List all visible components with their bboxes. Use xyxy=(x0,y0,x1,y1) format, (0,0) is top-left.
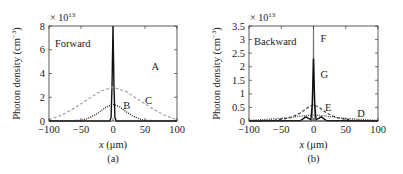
y-tick-label: 6 xyxy=(40,44,45,55)
y-tick-label: 0 xyxy=(40,116,45,127)
panel-title: Forward xyxy=(55,38,91,49)
series-label-g: G xyxy=(321,69,329,80)
y-tick-label: 2 xyxy=(240,61,245,72)
series-label-c: C xyxy=(145,95,152,106)
x-tick-label: 100 xyxy=(169,124,185,135)
panel-caption: (b) xyxy=(307,153,320,165)
series-c-line xyxy=(49,87,177,120)
y-tick-label: 3 xyxy=(240,34,245,45)
series-label-d: D xyxy=(357,108,365,119)
y-multiplier-label: × 1013 xyxy=(250,11,276,23)
series-label-b: B xyxy=(123,100,130,111)
y-tick-label: 1.5 xyxy=(232,75,245,86)
x-tick-label: 50 xyxy=(140,124,151,135)
x-tick-label: 0 xyxy=(110,124,115,135)
y-tick-label: 4 xyxy=(40,68,46,79)
y-axis-label: Photon density (cm−3) xyxy=(10,27,23,120)
y-tick-label: 1 xyxy=(240,88,245,99)
x-tick-label: 100 xyxy=(370,124,386,135)
series-label-a: A xyxy=(151,61,159,72)
chart-panel-b: −100−5005010000.511.522.533.5× 1013Backw… xyxy=(210,11,386,165)
y-tick-label: 2.5 xyxy=(232,48,245,59)
x-tick-label: 0 xyxy=(311,124,316,135)
x-axis-label: x (μm) xyxy=(98,139,128,151)
panel-caption: (a) xyxy=(107,153,119,165)
y-tick-label: 0.5 xyxy=(232,102,245,113)
figure: −100−5005010002468× 1013ForwardABCx (μm)… xyxy=(0,0,403,174)
panel-title: Backward xyxy=(254,36,297,47)
x-tick-label: −50 xyxy=(73,124,89,135)
y-tick-label: 0 xyxy=(240,116,245,127)
x-tick-label: 50 xyxy=(341,124,352,135)
y-tick-label: 3.5 xyxy=(232,21,245,32)
chart-panel-a: −100−5005010002468× 1013ForwardABCx (μm)… xyxy=(10,11,185,165)
y-multiplier-label: × 1013 xyxy=(50,11,76,23)
series-label-e: E xyxy=(325,102,331,113)
x-tick-label: −50 xyxy=(273,124,289,135)
y-tick-label: 2 xyxy=(40,92,45,103)
y-axis-label: Photon density (cm−3) xyxy=(210,27,223,120)
series-label-f: F xyxy=(321,33,327,44)
x-axis-label: x (μm) xyxy=(298,139,328,151)
y-tick-label: 8 xyxy=(40,21,45,32)
